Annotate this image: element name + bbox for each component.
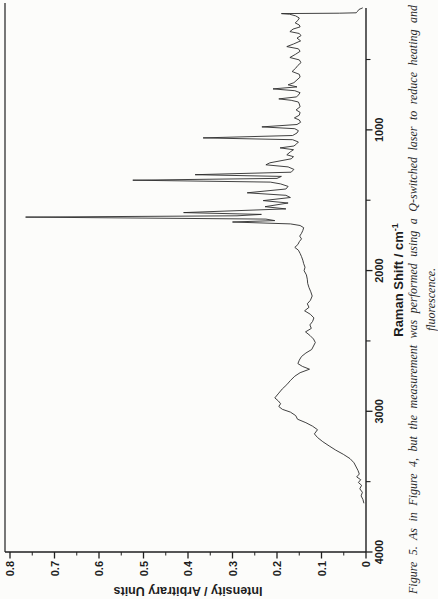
- y-tick-label: 0.7: [49, 561, 61, 576]
- y-tick-label: 0.5: [138, 561, 150, 576]
- axis-ticks: [10, 60, 373, 559]
- y-axis-title: Intensity / Arbitrary Units: [114, 584, 263, 598]
- rotated-figure-stage: 400030002000100000.10.20.30.40.50.60.70.…: [0, 0, 438, 599]
- figure-caption-line1: Figure 5. As in Figure 4, but the measur…: [405, 5, 421, 594]
- spectrum-trace: [26, 8, 364, 503]
- y-tick-label: 0.2: [271, 561, 283, 576]
- x-axis-title-superscript: -1: [390, 223, 400, 231]
- y-tick-label: 0: [360, 561, 372, 567]
- x-tick-label: 2000: [373, 258, 385, 282]
- x-axis-title-text: Raman Shift / cm: [391, 231, 406, 336]
- plot-frame: [5, 3, 366, 552]
- raman-spectrum-chart: 400030002000100000.10.20.30.40.50.60.70.…: [0, 0, 438, 599]
- y-tick-label: 0.6: [93, 561, 105, 576]
- scanned-page: 400030002000100000.10.20.30.40.50.60.70.…: [0, 0, 438, 599]
- y-tick-label: 0.3: [227, 561, 239, 576]
- figure-caption-line2: fluorescence.: [423, 5, 438, 594]
- x-axis-title: Raman Shift / cm-1: [390, 223, 407, 336]
- x-tick-label: 4000: [373, 540, 385, 564]
- y-tick-label: 0.4: [182, 560, 194, 576]
- y-tick-label: 0.8: [4, 561, 16, 576]
- x-tick-label: 1000: [373, 118, 385, 142]
- x-tick-label: 3000: [373, 399, 385, 423]
- y-tick-label: 0.1: [316, 561, 328, 576]
- axis-tick-labels: 400030002000100000.10.20.30.40.50.60.70.…: [4, 118, 385, 577]
- figure-caption: Figure 5. As in Figure 4, but the measur…: [405, 5, 438, 594]
